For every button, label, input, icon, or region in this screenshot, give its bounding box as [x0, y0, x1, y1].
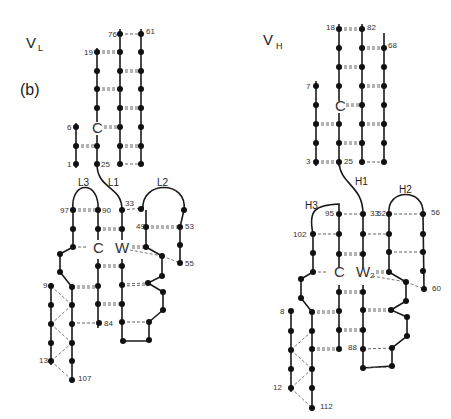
residue-number: 8 — [280, 307, 285, 316]
residue-number: 95 — [325, 209, 334, 218]
residue-number: 52 — [377, 209, 386, 218]
residue-number: 25 — [344, 157, 353, 166]
residue-number: 49 — [136, 222, 145, 231]
loop-label: L1 — [108, 177, 120, 188]
residue-number: 55 — [185, 259, 194, 268]
residue-number: 84 — [104, 319, 113, 328]
residue-number: 7 — [306, 82, 311, 91]
residue-letter: 2 — [370, 271, 375, 280]
residue-number: 90 — [102, 206, 111, 215]
loop-label: H2 — [399, 184, 412, 195]
residue-number: 82 — [367, 23, 376, 32]
residue-letter: C — [93, 239, 104, 256]
vh-title-subscript: H — [276, 41, 283, 51]
antibody-topology-diagram: V L V H (b) 7661196125L3L1L2979033495355… — [0, 0, 451, 419]
residue-letter: W — [115, 239, 130, 256]
residue-number: 112 — [320, 402, 333, 411]
residue-number: 102 — [293, 230, 307, 239]
residue-number: 25 — [101, 160, 110, 169]
panel-label: (b) — [20, 81, 40, 98]
residue-number-labels: 7661196125L3L1L2979033495355984131071882… — [39, 23, 441, 411]
residue-number: 12 — [273, 383, 282, 392]
loop-label: L2 — [157, 177, 169, 188]
residue-number: 60 — [432, 284, 441, 293]
residue-letter: C — [92, 119, 103, 136]
residue-letter: C — [334, 263, 345, 280]
residue-number: 88 — [348, 343, 357, 352]
residue-number: 3 — [306, 157, 311, 166]
residue-number: 9 — [43, 281, 48, 290]
residue-number: 19 — [84, 48, 93, 57]
residue-number: 18 — [326, 23, 335, 32]
residue-number: 33 — [125, 199, 134, 208]
residue-letter: W — [356, 263, 371, 280]
residue-letter: C — [335, 97, 346, 114]
vh-title: V — [263, 31, 273, 48]
vl-title-subscript: L — [38, 43, 43, 53]
residue-letter-labels: CCWCCW2 — [92, 97, 375, 280]
residue-number: 13 — [39, 356, 48, 365]
residue-number: 6 — [67, 123, 72, 132]
loop-label: L3 — [78, 177, 90, 188]
loop-label: H1 — [355, 176, 368, 187]
residue-number: 53 — [185, 222, 194, 231]
residue-number: 68 — [388, 41, 397, 50]
residue-number: 97 — [60, 206, 69, 215]
residue-number: 107 — [78, 374, 92, 383]
loop-label: H3 — [305, 200, 318, 211]
residue-number: 61 — [146, 27, 155, 36]
domain-titles: V L V H (b) — [20, 31, 283, 98]
residue-number: 76 — [108, 30, 117, 39]
vl-title: V — [26, 34, 36, 51]
residue-number: 1 — [67, 160, 72, 169]
residue-number: 56 — [431, 208, 440, 217]
